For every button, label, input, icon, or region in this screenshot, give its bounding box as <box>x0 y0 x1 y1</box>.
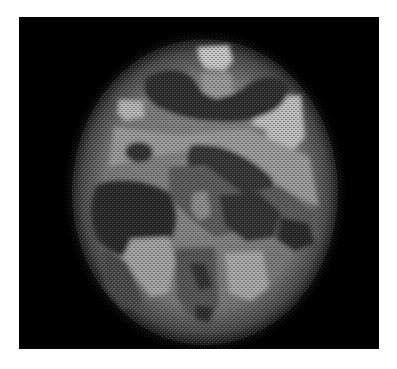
brain-scan-image <box>19 17 379 349</box>
scan-frame: Dithered grayscale axial brain scan <box>19 17 379 349</box>
